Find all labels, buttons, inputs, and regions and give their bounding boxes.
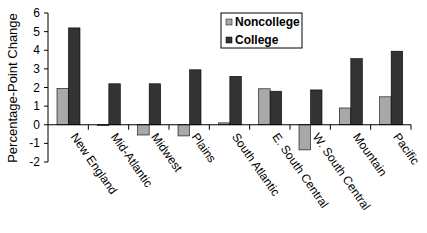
y-tick-label: 0 (33, 118, 40, 132)
y-tick-label: 1 (33, 99, 40, 113)
y-tick-label: 6 (33, 6, 40, 20)
legend-label-noncollege: Noncollege (235, 15, 300, 29)
category-label: Plains (189, 130, 219, 165)
y-axis: -2-10123456 (29, 6, 48, 169)
bar-college (69, 28, 81, 125)
category-labels: New EnglandMid-AtlanticMidwestPlainsSout… (68, 130, 422, 212)
y-axis-label: Percentage-Point Change (5, 13, 20, 163)
y-tick-label: 5 (33, 25, 40, 39)
bar-chart: Percentage-Point Change -2-10123456 New … (0, 0, 427, 233)
bar-noncollege (299, 125, 311, 150)
y-tick-label: -1 (29, 136, 40, 150)
legend-label-college: College (235, 33, 279, 47)
bar-college (230, 76, 242, 124)
y-tick-label: 2 (33, 81, 40, 95)
bar-noncollege (57, 88, 69, 124)
y-tick-label: 4 (33, 43, 40, 57)
bar-college (149, 84, 161, 125)
bar-noncollege (178, 125, 190, 136)
legend-swatch-college (226, 37, 232, 43)
bar-noncollege (138, 125, 150, 135)
y-tick-label: -2 (29, 155, 40, 169)
bar-college (351, 59, 363, 125)
legend-swatch-noncollege (226, 19, 232, 25)
bar-noncollege (380, 97, 392, 125)
bar-noncollege (259, 89, 271, 125)
category-label: Pacific (390, 130, 422, 167)
bar-college (270, 91, 282, 125)
bar-college (311, 90, 323, 125)
bar-college (190, 70, 202, 125)
bar-noncollege (339, 108, 351, 125)
category-label: Mountain (350, 130, 390, 178)
category-label: Midwest (148, 130, 185, 175)
bar-college (391, 51, 403, 125)
legend: Noncollege College (221, 13, 302, 48)
bar-college (109, 84, 121, 125)
y-tick-label: 3 (33, 62, 40, 76)
